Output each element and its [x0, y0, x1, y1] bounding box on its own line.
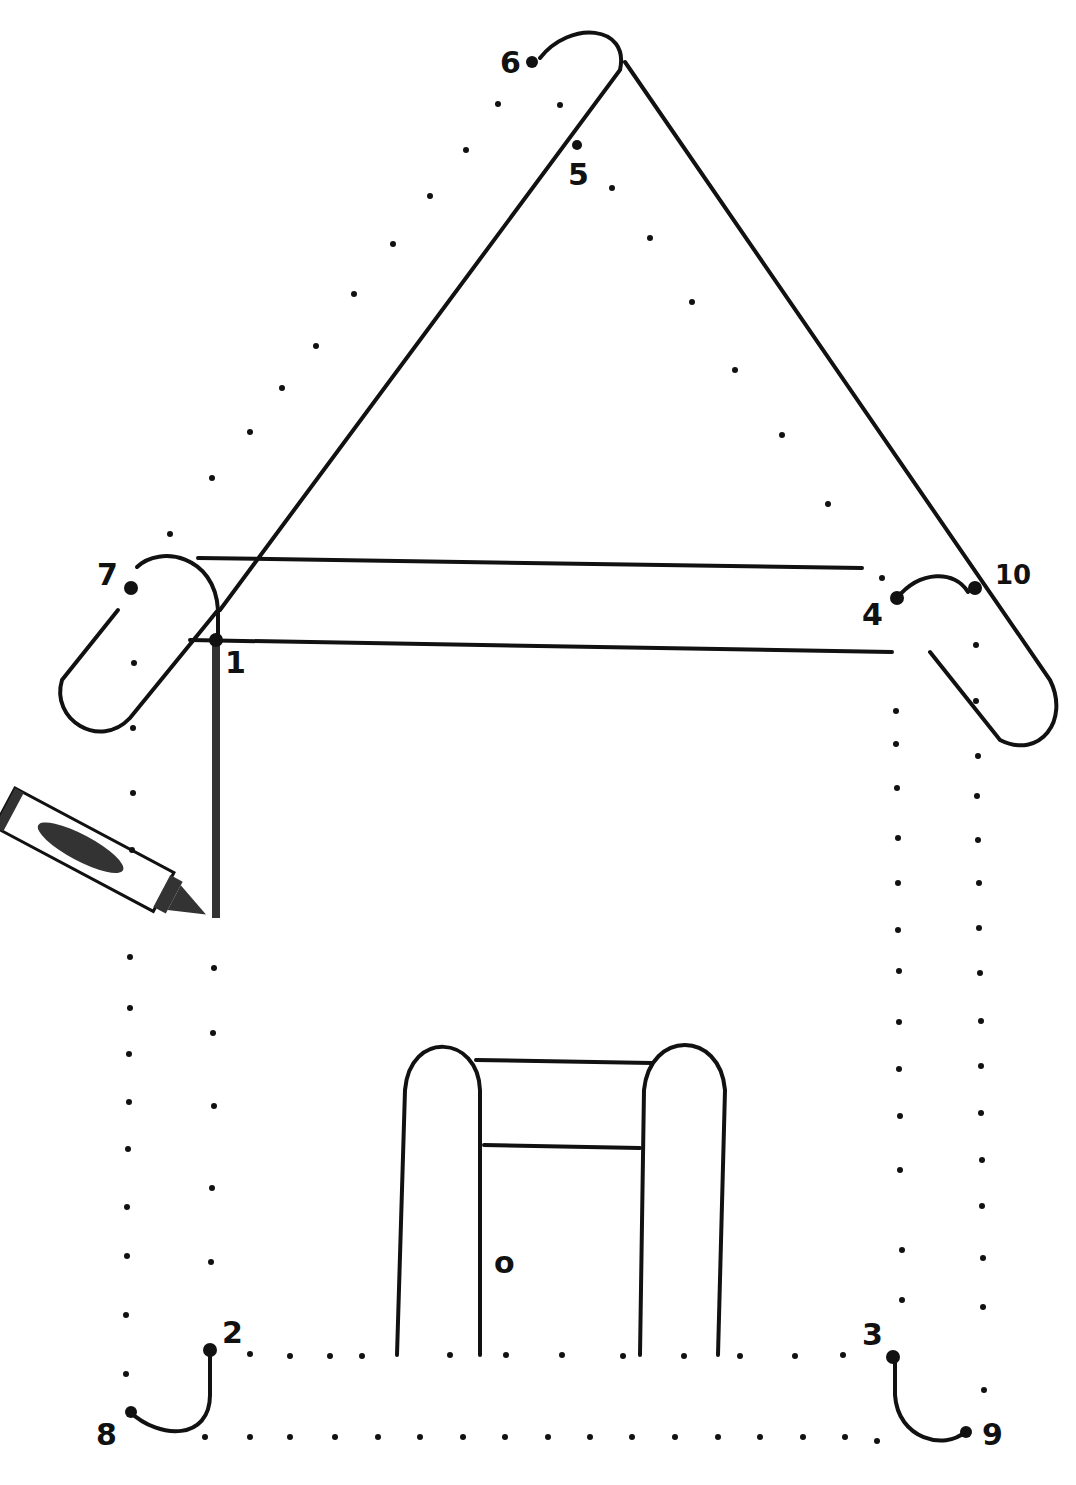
label-2: 2: [222, 1318, 243, 1348]
label-1: 1: [225, 648, 246, 678]
crayon-icon: [0, 788, 216, 934]
hook-2-8: [130, 1348, 210, 1431]
house-drawing: [0, 0, 1076, 1485]
worksheet: 6 5 7 1 4 10 2 8 3 9 o: [0, 0, 1076, 1485]
label-3: 3: [862, 1320, 883, 1350]
numbered-dots: [124, 56, 982, 1438]
eave-bottom-line: [190, 640, 892, 652]
label-4: 4: [862, 600, 883, 630]
hook-4-10: [897, 576, 968, 598]
label-6: 6: [500, 48, 521, 78]
guide-dots: [123, 101, 987, 1444]
roof-right-stroke: [625, 62, 1056, 745]
label-10: 10: [995, 562, 1031, 588]
roof-left-stroke: [220, 33, 621, 610]
label-5: 5: [568, 160, 589, 190]
door-left-pillar: [397, 1047, 480, 1355]
door-knob: o: [494, 1248, 515, 1278]
door-top-bar: [476, 1060, 652, 1063]
hook-3-9: [895, 1358, 965, 1440]
door-mid-bar: [484, 1145, 640, 1148]
eave-left: [60, 556, 218, 731]
door-right-pillar: [640, 1045, 725, 1355]
label-9: 9: [982, 1420, 1003, 1450]
eave-top-line: [198, 558, 862, 568]
label-8: 8: [96, 1420, 117, 1450]
label-7: 7: [97, 560, 118, 590]
